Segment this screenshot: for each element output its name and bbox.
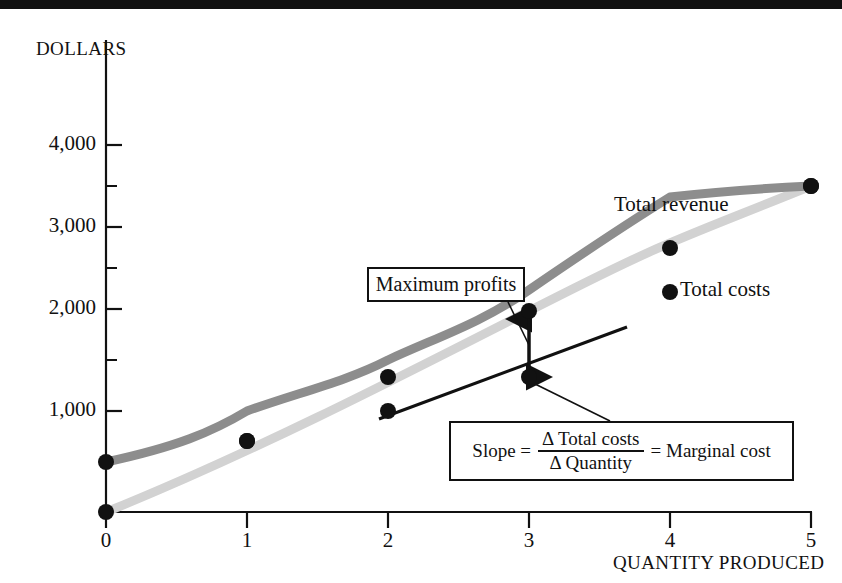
data-point-costs-q5: [803, 178, 819, 194]
slope-formula-denominator: Δ Quantity: [546, 452, 636, 473]
y-tick-label-1000: 1,000: [18, 397, 96, 422]
data-point-revenue-q3: [521, 303, 537, 319]
figure-total-revenue-total-costs: DOLLARS QUANTITY PRODUCED 4,000 3,000 2,…: [0, 0, 842, 583]
y-tick-label-3000: 3,000: [18, 213, 96, 238]
y-axis-title: DOLLARS: [36, 38, 126, 60]
callout-maximum-profits: Maximum profits: [367, 267, 525, 302]
slope-formula-lead: Slope =: [472, 440, 531, 462]
series-label-total-costs: Total costs: [680, 277, 770, 302]
data-point-costs-q2: [380, 403, 396, 419]
slope-formula-fraction: Δ Total costs Δ Quantity: [538, 429, 643, 473]
x-tick-label-4: 4: [653, 528, 687, 553]
data-point-costs-q3: [521, 369, 537, 385]
series-label-total-revenue: Total revenue: [614, 192, 729, 217]
callout-maximum-profits-label: Maximum profits: [376, 273, 517, 296]
slope-leader-line: [529, 381, 610, 421]
callout-slope-formula: Slope = Δ Total costs Δ Quantity = Margi…: [449, 421, 794, 481]
x-axis-title: QUANTITY PRODUCED: [613, 552, 824, 574]
data-point-revenue-q2: [380, 369, 396, 385]
data-point-revenue-q0: [98, 504, 114, 520]
data-point-costs-q1: [239, 433, 255, 449]
y-tick-label-4000: 4,000: [18, 131, 96, 156]
slope-formula-trail: = Marginal cost: [651, 440, 771, 462]
x-tick-label-0: 0: [89, 528, 123, 553]
x-tick-label-5: 5: [794, 528, 828, 553]
data-point-costs-q0: [98, 454, 114, 470]
slope-formula-numerator: Δ Total costs: [538, 429, 643, 450]
x-tick-label-1: 1: [230, 528, 264, 553]
y-tick-label-2000: 2,000: [18, 295, 96, 320]
data-point-costs-q4: [662, 284, 678, 300]
x-tick-label-3: 3: [512, 528, 546, 553]
data-point-revenue-q4: [662, 240, 678, 256]
x-tick-label-2: 2: [371, 528, 405, 553]
